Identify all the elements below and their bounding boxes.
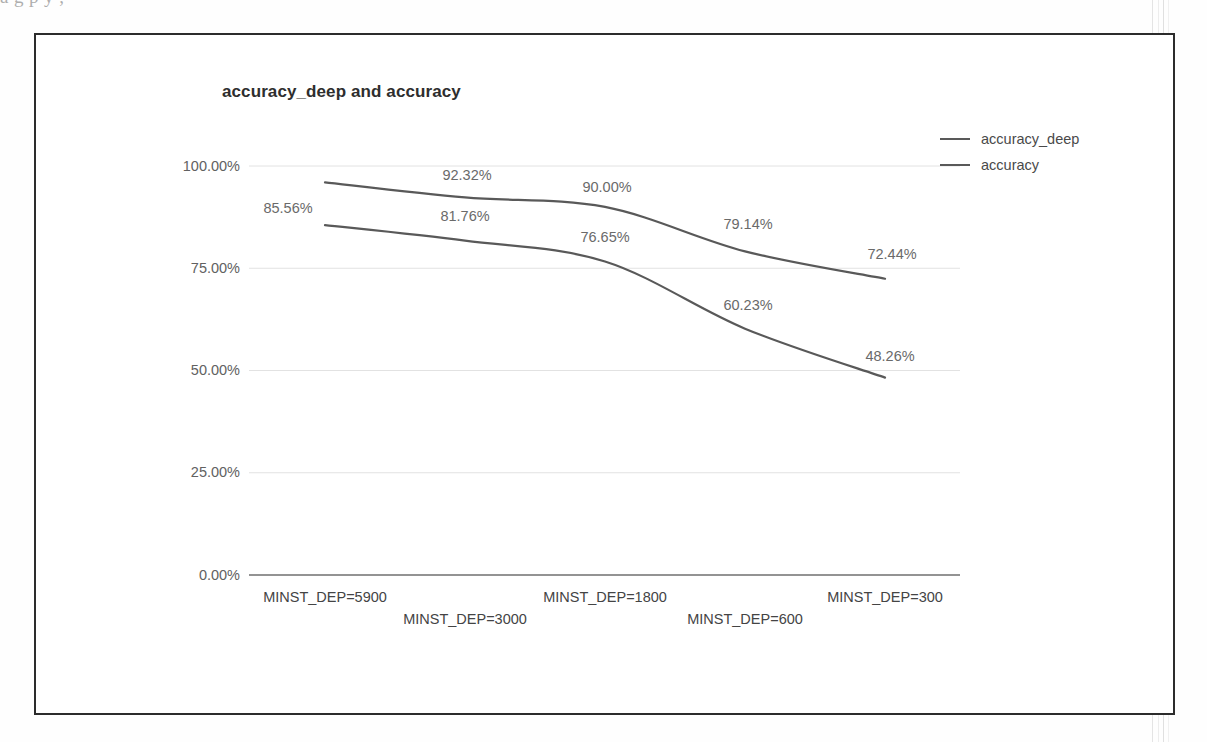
- data-point-label: 92.32%: [442, 167, 491, 183]
- y-axis-tick-label: 25.00%: [148, 464, 240, 480]
- legend-line-swatch-icon: [940, 164, 970, 166]
- x-axis-tick-label: MINST_DEP=5900: [263, 589, 387, 605]
- legend-item-label: accuracy: [981, 157, 1039, 173]
- legend-item[interactable]: accuracy_deep: [940, 126, 1079, 152]
- series-lines-group: [325, 182, 885, 377]
- chart-legend: accuracy_deepaccuracy: [940, 126, 1079, 178]
- data-point-label: 81.76%: [440, 208, 489, 224]
- data-point-label: 90.00%: [582, 179, 631, 195]
- y-axis-tick-label: 50.00%: [148, 362, 240, 378]
- data-point-label: 76.65%: [580, 229, 629, 245]
- legend-item[interactable]: accuracy: [940, 152, 1079, 178]
- data-point-label: 48.26%: [865, 348, 914, 364]
- legend-item-label: accuracy_deep: [981, 131, 1079, 147]
- legend-line-swatch-icon: [940, 138, 970, 140]
- y-axis-tick-label: 0.00%: [148, 567, 240, 583]
- x-axis-tick-label: MINST_DEP=600: [687, 611, 803, 627]
- x-axis-tick-label: MINST_DEP=3000: [403, 611, 527, 627]
- y-axis-tick-label: 75.00%: [148, 260, 240, 276]
- y-axis-tick-label: 100.00%: [148, 158, 240, 174]
- x-axis-tick-label: MINST_DEP=300: [827, 589, 943, 605]
- x-axis-tick-label: MINST_DEP=1800: [543, 589, 667, 605]
- data-point-label: 79.14%: [723, 216, 772, 232]
- data-point-label: 85.56%: [263, 200, 312, 216]
- data-point-label: 60.23%: [723, 297, 772, 313]
- data-point-label: 72.44%: [867, 246, 916, 262]
- series-line-accuracy[interactable]: [325, 225, 885, 378]
